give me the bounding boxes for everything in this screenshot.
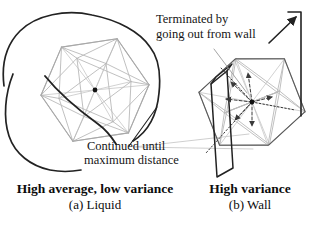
caption-liquid-sub: (a) Liquid xyxy=(2,198,188,211)
diagram-stroke xyxy=(41,95,84,116)
diagram-stroke xyxy=(250,100,255,105)
diagram-stroke xyxy=(59,98,113,121)
annotation-terminated-line2: going out from wall xyxy=(156,27,256,42)
annotation-continued-line2: maximum distance xyxy=(84,153,179,167)
diagram-stroke xyxy=(73,116,84,141)
diagram-stroke xyxy=(106,64,149,85)
diagram-stroke xyxy=(41,90,95,95)
terminated-rays xyxy=(206,68,295,153)
diagram-stroke xyxy=(77,58,131,81)
diagram-stroke xyxy=(129,82,131,133)
diagram-stroke xyxy=(93,88,98,93)
caption-wall: High variance (b) Wall xyxy=(190,182,310,211)
annotation-continued-line1: Continued until xyxy=(84,139,179,153)
caption-liquid: High average, low variance (a) Liquid xyxy=(2,182,188,211)
figure-raycast-diagram: Terminated by going out from wall Contin… xyxy=(0,0,315,228)
diagram-stroke xyxy=(269,17,296,43)
caption-wall-bold: High variance xyxy=(190,182,310,196)
caption-wall-sub: (b) Wall xyxy=(190,198,310,211)
diagram-stroke xyxy=(106,39,117,64)
diagram-stroke xyxy=(214,49,247,93)
annotation-continued: Continued until maximum distance xyxy=(84,139,179,167)
annotation-terminated-line1: Terminated by xyxy=(156,12,256,27)
wall-slab xyxy=(211,64,233,177)
diagram-stroke xyxy=(95,85,149,90)
diagram-stroke xyxy=(236,59,280,91)
annotation-terminated: Terminated by going out from wall xyxy=(156,12,256,42)
diagram-stroke xyxy=(268,92,277,145)
diagram-stroke xyxy=(288,12,301,116)
caption-liquid-bold: High average, low variance xyxy=(2,182,188,196)
wall-exit-arrow xyxy=(269,12,301,116)
